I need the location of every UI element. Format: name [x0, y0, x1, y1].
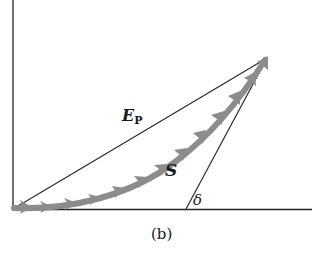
ep-label: EP — [122, 106, 142, 127]
figure-caption: (b) — [151, 225, 172, 243]
ep-label-sub: P — [134, 114, 142, 127]
s-label: S — [165, 160, 177, 180]
ep-label-main: E — [122, 106, 134, 125]
delta-label: δ — [193, 191, 202, 209]
diagram — [0, 0, 312, 254]
